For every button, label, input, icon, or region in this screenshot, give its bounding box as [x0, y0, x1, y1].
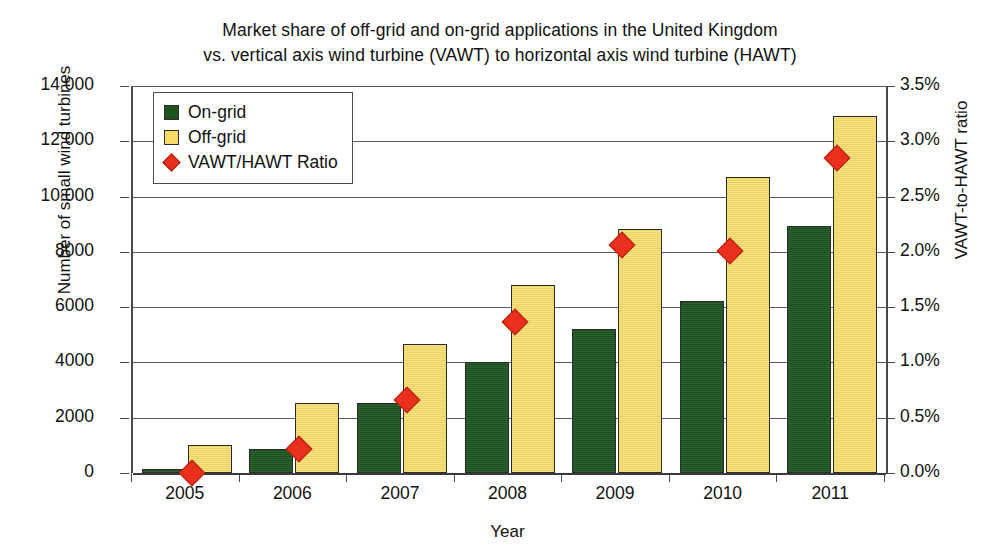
legend-label-off-grid: Off-grid [188, 129, 246, 147]
gridline [133, 473, 886, 475]
bar-on-grid [787, 226, 831, 473]
y-axis-tick-label-left: 8000 [55, 240, 116, 261]
x-axis-label: Year [131, 522, 884, 542]
legend-diamond-red-icon [162, 153, 180, 171]
y-axis-tick-left [120, 141, 129, 142]
y-axis-tick-label-left: 2000 [55, 406, 116, 427]
x-axis-tick-label: 2011 [780, 483, 880, 504]
bar-on-grid [572, 329, 616, 473]
y-axis-tick-label-left: 0 [84, 461, 116, 482]
y-axis-tick-left [120, 86, 129, 87]
y-axis-tick-label-right: 2.5% [900, 185, 940, 206]
y-axis-tick-left [120, 252, 129, 253]
x-axis-tick-label: 2008 [458, 483, 558, 504]
bar-on-grid [357, 403, 401, 473]
y-axis-tick-label-right: 0.0% [900, 461, 940, 482]
y-axis-tick-label-left: 6000 [55, 295, 116, 316]
gridline [133, 307, 886, 308]
gridline [133, 418, 886, 419]
bar-on-grid [465, 362, 509, 473]
y-axis-tick-label-right: 3.5% [900, 74, 940, 95]
y-axis-tick-left [120, 418, 129, 419]
y-axis-tick-left [120, 362, 129, 363]
gridline [133, 86, 886, 87]
y-axis-tick-label-right: 1.5% [900, 295, 940, 316]
legend-item-on-grid: On-grid [164, 100, 338, 125]
gridline [133, 362, 886, 363]
chart-figure: Market share of off-grid and on-grid app… [0, 0, 1000, 552]
x-axis-tick-label: 2010 [673, 483, 773, 504]
chart-title: Market share of off-grid and on-grid app… [0, 18, 1000, 68]
bar-on-grid [680, 301, 724, 473]
x-axis-tick-label: 2007 [350, 483, 450, 504]
bar-off-grid [618, 229, 662, 473]
legend-item-off-grid: Off-grid [164, 125, 338, 150]
bar-on-grid [249, 449, 293, 473]
y-axis-tick-label-right: 3.0% [900, 129, 940, 150]
x-axis-tick [131, 473, 132, 482]
legend-label-on-grid: On-grid [188, 104, 246, 122]
bar-off-grid [726, 177, 770, 473]
x-axis-tick-label: 2009 [565, 483, 665, 504]
y-axis-tick-label-left: 14 000 [40, 74, 116, 95]
legend-swatch-green-icon [164, 105, 179, 120]
y-axis-label-right: VAWT-to-HAWT ratio [952, 0, 972, 390]
y-axis-tick-label-right: 2.0% [900, 240, 940, 261]
chart-legend: On-grid Off-grid VAWT/HAWT Ratio [153, 92, 353, 184]
y-axis-tick-label-left: 12 000 [40, 129, 116, 150]
gridline [133, 197, 886, 198]
y-axis-tick-label-right: 1.0% [900, 350, 940, 371]
chart-title-line-2: vs. vertical axis wind turbine (VAWT) to… [0, 43, 1000, 68]
legend-item-ratio: VAWT/HAWT Ratio [164, 150, 338, 175]
y-axis-tick-left [120, 473, 129, 474]
y-axis-tick-left [120, 197, 129, 198]
y-axis-tick-label-left: 10 000 [40, 185, 116, 206]
legend-label-ratio: VAWT/HAWT Ratio [188, 154, 338, 172]
x-axis-tick-label: 2006 [242, 483, 342, 504]
y-axis-tick-right [886, 473, 895, 474]
x-axis-tick-label: 2005 [135, 483, 235, 504]
gridline [133, 252, 886, 253]
legend-swatch-yellow-icon [164, 130, 179, 145]
bar-off-grid [833, 116, 877, 473]
y-axis-tick-label-left: 4000 [55, 350, 116, 371]
chart-title-line-1: Market share of off-grid and on-grid app… [0, 18, 1000, 43]
y-axis-tick-label-right: 0.5% [900, 406, 940, 427]
y-axis-tick-left [120, 307, 129, 308]
